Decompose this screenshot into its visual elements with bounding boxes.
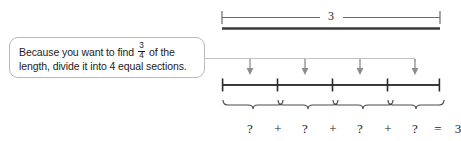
section-arrows xyxy=(247,59,419,75)
brace-4 xyxy=(388,100,444,109)
callout-text-post: of the xyxy=(149,46,175,58)
equation-token-0: ? xyxy=(247,119,253,139)
brace-3 xyxy=(333,100,393,109)
diagram-canvas: 3 Because you want to find 3 4 of the le… xyxy=(0,0,461,141)
arrow-1 xyxy=(247,59,254,75)
equation-token-4: ? xyxy=(357,119,363,139)
section-braces xyxy=(223,100,444,109)
equation-token-3: + xyxy=(329,119,336,139)
equation-row: ? + ? + ? + ? = 3 xyxy=(222,119,454,139)
arrow-2 xyxy=(302,59,309,75)
callout-box: Because you want to find 3 4 of the leng… xyxy=(9,37,205,78)
callout-connector xyxy=(205,59,415,63)
arrow-4 xyxy=(412,59,419,75)
equation-token-5: + xyxy=(384,119,391,139)
callout-text-pre: Because you want to find xyxy=(19,46,134,58)
brace-1 xyxy=(223,100,283,109)
number-line xyxy=(222,79,440,92)
equation-token-8: 3 xyxy=(455,119,461,139)
top-bracket-label: 3 xyxy=(324,9,338,23)
callout-line-1: Because you want to find 3 4 of the xyxy=(19,42,196,58)
equation-token-1: + xyxy=(274,119,281,139)
callout-line-2: length, divide it into 4 equal sections. xyxy=(19,58,196,74)
equation-token-7: = xyxy=(434,119,441,139)
brace-2 xyxy=(278,100,338,109)
equation-token-2: ? xyxy=(302,119,308,139)
fraction-numerator: 3 xyxy=(138,42,144,50)
arrow-3 xyxy=(357,59,364,75)
equation-token-6: ? xyxy=(412,119,418,139)
